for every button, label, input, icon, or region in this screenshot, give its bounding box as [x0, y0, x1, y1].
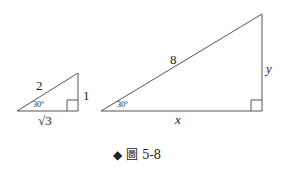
triangles-diagram	[0, 0, 285, 170]
small-opposite-label: 1	[83, 89, 90, 102]
large-angle-label: 30°	[117, 101, 128, 109]
small-angle-label: 30°	[33, 101, 44, 109]
small-hypotenuse-label: 2	[36, 79, 43, 92]
small-right-angle-mark	[67, 100, 78, 111]
figure-caption: ◆ 圖 5-8	[113, 149, 161, 161]
large-adjacent-label: x	[175, 113, 181, 126]
large-right-angle-mark	[251, 100, 262, 111]
caption-text: 圖 5-8	[126, 148, 161, 162]
diamond-icon: ◆	[113, 148, 122, 162]
large-triangle	[101, 14, 262, 111]
small-adjacent-label: √3	[38, 114, 52, 127]
large-opposite-label: y	[266, 62, 272, 75]
small-triangle	[17, 73, 78, 111]
large-hypotenuse-label: 8	[170, 53, 177, 66]
